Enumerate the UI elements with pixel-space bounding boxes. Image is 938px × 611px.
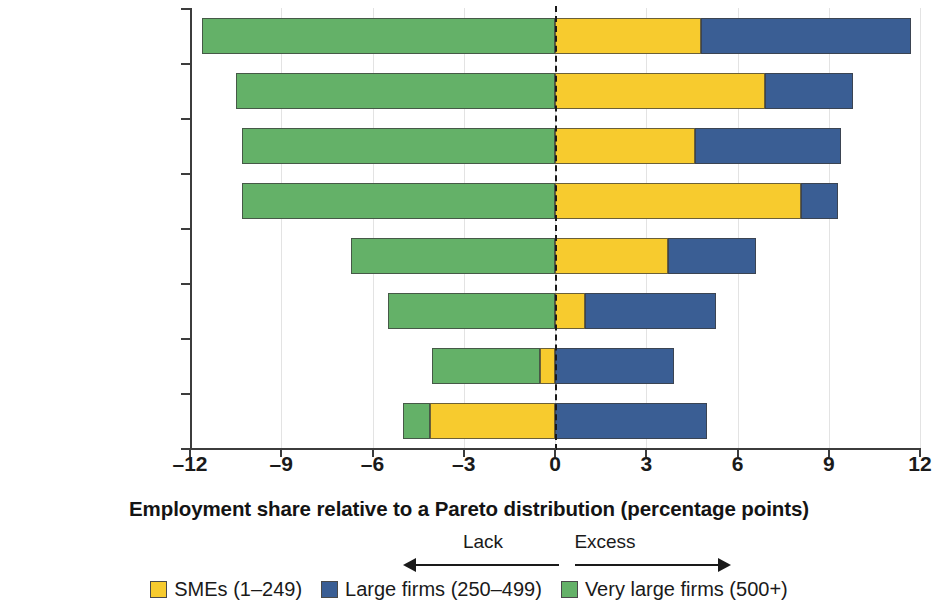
legend-item[interactable]: Very large firms (500+) xyxy=(561,578,788,601)
bar-segment[interactable] xyxy=(555,183,801,219)
bar-segment[interactable] xyxy=(695,128,841,164)
lack-label: Lack xyxy=(463,531,503,553)
bar-segment[interactable] xyxy=(242,128,555,164)
bar-segment[interactable] xyxy=(555,73,765,109)
x-axis-tick-label: 9 xyxy=(823,452,835,476)
excess-arrow xyxy=(575,558,731,572)
bar-segment[interactable] xyxy=(555,293,585,329)
bar-segment[interactable] xyxy=(555,128,695,164)
legend-swatch xyxy=(150,581,167,598)
legend-swatch xyxy=(561,581,578,598)
bar-segment[interactable] xyxy=(242,183,555,219)
legend-label: Very large firms (500+) xyxy=(585,578,788,601)
bar-segment[interactable] xyxy=(432,348,540,384)
x-axis-tick-label: –9 xyxy=(270,452,293,476)
y-axis-tick xyxy=(181,8,190,10)
gridline xyxy=(920,8,921,448)
legend-item[interactable]: Large firms (250–499) xyxy=(321,578,542,601)
zero-line xyxy=(555,6,557,450)
y-axis-tick xyxy=(181,338,190,340)
bar-segment[interactable] xyxy=(236,73,555,109)
y-axis-tick xyxy=(181,393,190,395)
arrow-head-right xyxy=(718,558,731,572)
legend: SMEs (1–249)Large firms (250–499)Very la… xyxy=(0,578,938,601)
bar-segment[interactable] xyxy=(202,18,555,54)
legend-item[interactable]: SMEs (1–249) xyxy=(150,578,302,601)
arrow-shaft-right xyxy=(575,564,720,566)
bar-segment[interactable] xyxy=(765,73,853,109)
y-axis-tick xyxy=(181,283,190,285)
legend-label: SMEs (1–249) xyxy=(174,578,302,601)
x-axis-title: Employment share relative to a Pareto di… xyxy=(0,497,938,521)
x-axis-tick-label: 12 xyxy=(908,452,931,476)
bar-segment[interactable] xyxy=(801,183,838,219)
arrow-shaft-left xyxy=(414,564,559,566)
y-axis-tick xyxy=(181,118,190,120)
bar-segment[interactable] xyxy=(555,403,707,439)
excess-label: Excess xyxy=(574,531,635,553)
bar-segment[interactable] xyxy=(351,238,555,274)
plot-area xyxy=(190,8,920,448)
x-axis-tick-label: –6 xyxy=(361,452,384,476)
x-axis-tick-label: –12 xyxy=(172,452,207,476)
chart-figure: Kyrgyz RepublicBulgariaNorth MacedoniaKo… xyxy=(0,0,938,611)
legend-label: Large firms (250–499) xyxy=(345,578,542,601)
bar-segment[interactable] xyxy=(668,238,756,274)
direction-annotation: Lack Excess xyxy=(0,531,938,573)
bar-segment[interactable] xyxy=(540,348,555,384)
bar-segment[interactable] xyxy=(430,403,555,439)
bar-segment[interactable] xyxy=(701,18,911,54)
bar-segment[interactable] xyxy=(388,293,555,329)
y-axis-tick xyxy=(181,228,190,230)
y-axis-tick xyxy=(181,173,190,175)
bar-segment[interactable] xyxy=(585,293,716,329)
y-axis-tick xyxy=(181,63,190,65)
bar-segment[interactable] xyxy=(555,238,668,274)
bar-segment[interactable] xyxy=(555,18,701,54)
bar-segment[interactable] xyxy=(403,403,430,439)
x-axis-tick-label: 3 xyxy=(640,452,652,476)
x-axis-tick-label: 0 xyxy=(549,452,561,476)
legend-swatch xyxy=(321,581,338,598)
x-axis-tick-label: 6 xyxy=(732,452,744,476)
x-axis-tick-label: –3 xyxy=(452,452,475,476)
bar-segment[interactable] xyxy=(555,348,674,384)
lack-arrow xyxy=(403,558,559,572)
